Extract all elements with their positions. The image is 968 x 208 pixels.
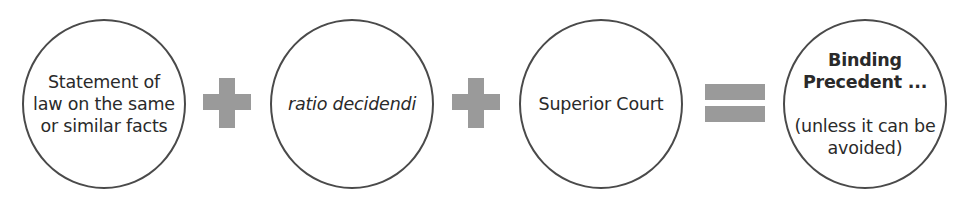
ratio-decidendi-text: ratio decidendi xyxy=(288,93,416,115)
plus-icon xyxy=(452,78,500,128)
statement-of-law-text: Statement of law on the same or similar … xyxy=(33,71,175,137)
result-note-line: (unless it can be xyxy=(794,115,935,137)
plus-icon xyxy=(203,78,251,128)
circle-ratio-decidendi: ratio decidendi xyxy=(270,19,434,189)
equals-icon xyxy=(705,84,765,122)
line: law on the same xyxy=(33,93,175,115)
circle-binding-precedent: Binding Precedent ... (unless it can be … xyxy=(783,19,947,189)
result-note-line: avoided) xyxy=(828,137,903,159)
superior-court-text: Superior Court xyxy=(539,93,664,115)
circle-statement-of-law: Statement of law on the same or similar … xyxy=(22,19,186,189)
result-title-line: Precedent ... xyxy=(803,71,927,93)
circle-superior-court: Superior Court xyxy=(519,19,683,189)
line: Statement of xyxy=(33,71,175,93)
result-title-line: Binding xyxy=(828,49,902,71)
line: or similar facts xyxy=(33,115,175,137)
